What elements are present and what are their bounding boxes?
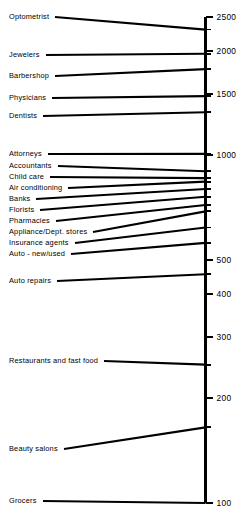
leader-line xyxy=(43,501,206,503)
leader-line xyxy=(104,361,206,365)
category-label: Barbershop xyxy=(9,72,49,80)
axis-tick-label: 1500 xyxy=(217,90,237,99)
leader-line xyxy=(75,228,206,243)
category-label: Air conditioning xyxy=(9,184,62,192)
axis-tick-label: 300 xyxy=(217,333,232,342)
leader-line xyxy=(58,166,206,171)
category-label: Pharmacies xyxy=(9,217,50,225)
axis-tick-label: 2500 xyxy=(217,13,237,22)
axis-tick-label: 400 xyxy=(217,289,232,298)
leader-line xyxy=(68,182,206,188)
category-label: Appliance/Dept. stores xyxy=(9,228,87,236)
leader-line xyxy=(57,274,206,281)
axis-tick-label: 100 xyxy=(217,499,232,508)
category-label: Auto repairs xyxy=(9,277,51,285)
axis-tick-label: 500 xyxy=(217,256,232,265)
leader-line xyxy=(43,112,206,116)
axis-tick-label: 1000 xyxy=(217,151,237,160)
category-label: Auto - new/used xyxy=(9,250,65,258)
chart-container: OptometristJewelersBarbershopPhysiciansD… xyxy=(0,0,248,516)
category-label: Attorneys xyxy=(9,150,42,158)
leader-line xyxy=(55,69,206,76)
category-label: Jewelers xyxy=(9,51,40,59)
value-axis xyxy=(206,17,213,503)
category-label: Insurance agents xyxy=(9,239,69,247)
leader-line xyxy=(50,177,206,178)
category-label: Physicians xyxy=(9,94,46,102)
axis-tick-label: 200 xyxy=(217,394,232,403)
category-label: Child care xyxy=(9,173,44,181)
category-label: Beauty salons xyxy=(9,445,58,453)
category-label: Florists xyxy=(9,206,34,214)
leader-line xyxy=(46,54,206,55)
leader-line xyxy=(64,427,206,449)
axis-tick-label: 2000 xyxy=(217,46,237,55)
leader-line xyxy=(52,96,206,98)
leader-line xyxy=(55,17,206,30)
leader-line-group xyxy=(36,17,206,503)
category-label: Grocers xyxy=(9,497,37,505)
category-label: Banks xyxy=(9,195,30,203)
category-label: Accountants xyxy=(9,162,52,170)
category-label: Restaurants and fast food xyxy=(9,357,98,365)
category-label: Optometrist xyxy=(9,13,49,21)
leader-line xyxy=(71,243,206,254)
category-label: Dentists xyxy=(9,112,37,120)
